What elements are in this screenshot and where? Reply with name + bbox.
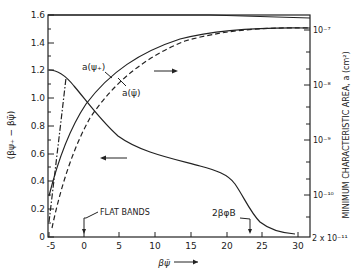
svg-text:0.2: 0.2 [31,204,45,214]
left-y-ticks [48,15,54,237]
left-axis-arrow [100,156,127,161]
curve-psi-diff [49,70,295,234]
x-tick-labels: -5 0 5 10 15 20 25 30 [47,241,304,251]
svg-text:1.6: 1.6 [31,10,46,20]
label-a-psi-bar: a(ψ̄) [122,88,140,98]
svg-text:20: 20 [221,241,233,251]
svg-text:βψ̄: βψ̄ [157,258,171,268]
svg-text:10: 10 [149,241,161,251]
y-right-axis-title: MINIMUM CHARACTERISTIC AREA, a (cm²) [342,51,351,218]
phi-b-annotation: 2βφB [212,208,252,234]
svg-text:0.4: 0.4 [31,176,46,186]
curve-a-psi-plus [49,28,310,196]
plot-frame [48,15,310,237]
svg-text:25: 25 [256,241,267,251]
svg-text:0.6: 0.6 [31,149,46,159]
svg-text:FLAT BANDS: FLAT BANDS [100,208,150,217]
svg-text:10⁻¹⁰: 10⁻¹⁰ [313,191,334,200]
svg-text:1.0: 1.0 [31,93,46,103]
svg-text:0: 0 [39,232,45,242]
label-a-psi-plus: a(ψ₊) [82,62,105,72]
chart: 0 0.2 0.4 0.6 0.8 1.0 1.2 1.4 1.6 -5 0 5… [0,0,358,271]
svg-text:0.8: 0.8 [31,121,46,131]
right-axis-arrow [154,69,178,74]
curve-a-psi-bar [52,28,310,228]
x-axis-title: βψ̄ [157,258,198,268]
svg-text:2βφB: 2βφB [212,208,236,218]
svg-text:1.4: 1.4 [31,38,46,48]
svg-text:10⁻⁸: 10⁻⁸ [313,81,331,90]
svg-text:10⁻⁹: 10⁻⁹ [313,136,331,145]
svg-text:5: 5 [116,241,122,251]
right-y-ticks [304,30,310,217]
flat-bands-annotation: FLAT BANDS [82,208,150,234]
svg-text:2 x 10⁻¹¹: 2 x 10⁻¹¹ [312,234,348,243]
svg-text:30: 30 [292,241,304,251]
svg-text:15: 15 [185,241,196,251]
svg-text:1.2: 1.2 [31,65,45,75]
svg-text:10⁻⁷: 10⁻⁷ [313,26,331,35]
x-ticks [49,232,298,237]
svg-text:0: 0 [81,241,87,251]
svg-text:-5: -5 [47,241,56,251]
left-y-tick-labels: 0 0.2 0.4 0.6 0.8 1.0 1.2 1.4 1.6 [31,10,46,242]
y-left-axis-title: (βψ₊ − βψ̄) [6,111,16,159]
